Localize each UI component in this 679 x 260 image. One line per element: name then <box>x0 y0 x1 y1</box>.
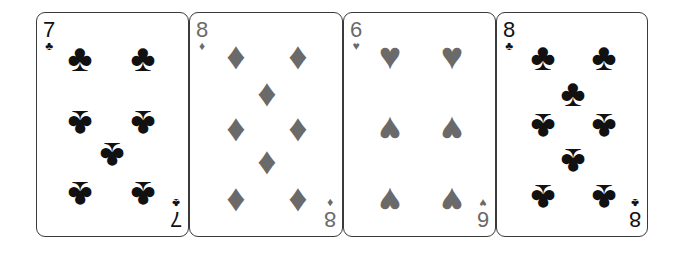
club-icon: ♣ <box>92 137 132 175</box>
corner-index-bottom: 8 ♣ <box>629 197 641 230</box>
card-8-of-diamonds[interactable]: 8 ♦ ♦ ♦ ♦ ♦ ♦ ♦ ♦ ♦ 8 ♦ <box>189 12 343 237</box>
heart-icon: ♥ <box>432 182 472 220</box>
diamond-icon: ♦ <box>278 37 318 75</box>
corner-index-bottom: 6 ♥ <box>477 197 489 230</box>
rank-label: 8 <box>503 19 515 41</box>
heart-icon: ♥ <box>432 111 472 149</box>
heart-icon: ♥ <box>479 197 486 209</box>
rank-label: 6 <box>477 208 489 230</box>
diamond-icon: ♦ <box>216 37 256 75</box>
club-icon: ♣ <box>553 143 593 181</box>
heart-icon: ♥ <box>370 182 410 220</box>
corner-index-top: 7 ♣ <box>43 19 55 52</box>
heart-icon: ♥ <box>353 40 360 52</box>
club-icon: ♣ <box>505 40 513 52</box>
club-icon: ♣ <box>523 179 563 217</box>
heart-icon: ♥ <box>370 37 410 75</box>
corner-index-top: 8 ♦ <box>196 19 208 52</box>
club-icon: ♣ <box>584 38 624 76</box>
diamond-icon: ♦ <box>199 40 205 52</box>
rank-label: 6 <box>350 19 362 41</box>
diamond-icon: ♦ <box>216 179 256 217</box>
club-icon: ♣ <box>123 176 163 214</box>
corner-index-bottom: 8 ♦ <box>324 197 336 230</box>
card-7-of-clubs[interactable]: 7 ♣ ♣ ♣ ♣ ♣ ♣ ♣ ♣ 7 ♣ <box>36 12 189 237</box>
club-icon: ♣ <box>60 176 100 214</box>
club-icon: ♣ <box>553 74 593 112</box>
card-6-of-hearts[interactable]: 6 ♥ ♥ ♥ ♥ ♥ ♥ ♥ 6 ♥ <box>343 12 496 237</box>
rank-label: 8 <box>196 19 208 41</box>
rank-label: 7 <box>170 208 182 230</box>
diamond-icon: ♦ <box>247 74 287 112</box>
heart-icon: ♥ <box>432 37 472 75</box>
corner-index-top: 8 ♣ <box>503 19 515 52</box>
diamond-icon: ♦ <box>278 179 318 217</box>
diamond-icon: ♦ <box>247 142 287 180</box>
card-8-of-clubs[interactable]: 8 ♣ ♣ ♣ ♣ ♣ ♣ ♣ ♣ ♣ 8 ♣ <box>496 12 648 237</box>
rank-label: 8 <box>629 208 641 230</box>
corner-index-top: 6 ♥ <box>350 19 362 52</box>
club-icon: ♣ <box>172 197 180 209</box>
club-icon: ♣ <box>45 40 53 52</box>
club-icon: ♣ <box>584 179 624 217</box>
club-icon: ♣ <box>60 39 100 77</box>
club-icon: ♣ <box>523 38 563 76</box>
corner-index-bottom: 7 ♣ <box>170 197 182 230</box>
diamond-icon: ♦ <box>327 197 333 209</box>
club-icon: ♣ <box>584 108 624 146</box>
club-icon: ♣ <box>123 39 163 77</box>
club-icon: ♣ <box>631 197 639 209</box>
heart-icon: ♥ <box>370 111 410 149</box>
rank-label: 7 <box>43 19 55 41</box>
club-icon: ♣ <box>523 108 563 146</box>
rank-label: 8 <box>324 208 336 230</box>
